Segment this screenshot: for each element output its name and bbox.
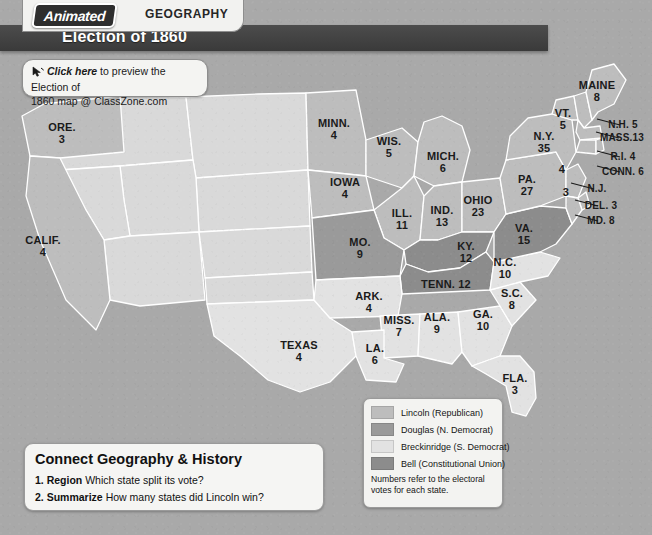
legend-item: Douglas (N. Democrat) — [371, 423, 495, 436]
question-number: 2. — [35, 491, 44, 503]
question-text: How many states did Lincoln win? — [106, 491, 264, 503]
territory-dakota — [186, 93, 308, 178]
legend-item: Bell (Constitutional Union) — [371, 457, 495, 470]
connect-heading: Connect Geography & History — [35, 451, 313, 467]
legend-item: Breckinridge (S. Democrat) — [371, 440, 495, 453]
callout-label-del3: DEL. 3 — [585, 200, 618, 211]
callout-label-ri4: R.I. 4 — [610, 151, 635, 162]
question-number: 1. — [35, 474, 44, 486]
callout-label-nh5: N.H. 5 — [608, 119, 638, 130]
click-here-link[interactable]: Click here — [47, 65, 97, 77]
state-maine — [586, 64, 626, 120]
territory-indian — [205, 272, 314, 304]
legend-swatch — [371, 406, 394, 419]
territory-newmexico — [104, 232, 205, 306]
connect-question: 2. Summarize How many states did Lincoln… — [35, 490, 313, 505]
screenshot-root: ORE.3CALIF.4TEXAS4MINN.4WIS.5IOWA4MICH.6… — [0, 0, 652, 535]
legend-item-label: Bell (Constitutional Union) — [401, 459, 505, 469]
legend-item-label: Douglas (N. Democrat) — [401, 425, 493, 435]
legend-item-label: Lincoln (Republican) — [401, 408, 483, 418]
territory-kansas — [199, 226, 312, 278]
legend-footnote-line1: Numbers refer to the electoral — [371, 474, 485, 484]
connect-question: 1. Region Which state split its vote? — [35, 473, 313, 488]
state-label-ky: KY.12 — [457, 240, 475, 264]
click-cursor-icon — [31, 66, 44, 80]
animated-logo: Animated — [31, 3, 118, 28]
header-card: Animated GEOGRAPHY — [22, 0, 244, 32]
click-here-card[interactable]: Click here to preview the Election of 18… — [22, 59, 208, 97]
question-term: Summarize — [47, 491, 103, 503]
legend-swatch — [371, 457, 394, 470]
callout-label-mass13: MASS.13 — [600, 132, 644, 143]
state-label-tennessee: TENN. 12 — [421, 278, 471, 290]
callout-label-md8: MD. 8 — [587, 215, 615, 226]
click-here-line2: 1860 map @ ClassZone.com — [31, 95, 167, 107]
territory-nebraska — [196, 170, 310, 232]
legend-footnote-line2: votes for each state. — [371, 485, 448, 495]
legend-item-label: Breckinridge (S. Democrat) — [401, 442, 510, 452]
legend-item: Lincoln (Republican) — [371, 406, 495, 419]
legend-footnote: Numbers refer to the electoral votes for… — [371, 474, 495, 496]
question-term: Region — [47, 474, 83, 486]
map-legend: Lincoln (Republican)Douglas (N. Democrat… — [363, 398, 503, 508]
state-connecticut — [576, 140, 596, 154]
animated-logo-text: Animated — [43, 8, 106, 24]
question-text: Which state split its vote? — [85, 474, 203, 486]
legend-swatch — [371, 423, 394, 436]
callout-label-conn6: CONN. 6 — [602, 166, 644, 177]
section-label: GEOGRAPHY — [145, 7, 228, 21]
callout-votes-nj: 3 — [563, 186, 569, 198]
territory-utah — [120, 160, 199, 236]
connect-geography-history-box: Connect Geography & History 1. Region Wh… — [24, 443, 324, 511]
callout-votes-conn6: 4 — [559, 163, 566, 175]
legend-swatch — [371, 440, 394, 453]
